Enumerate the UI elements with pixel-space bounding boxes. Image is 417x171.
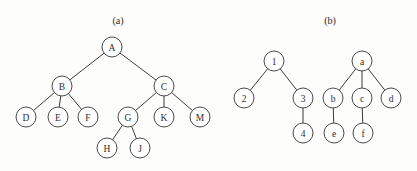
node-circle [154, 107, 174, 127]
node-circle [293, 123, 313, 143]
tree-node[interactable]: b [323, 88, 343, 108]
tree-node[interactable]: J [130, 138, 150, 158]
tree-node[interactable]: c [352, 88, 372, 108]
tree-node[interactable]: 3 [293, 88, 313, 108]
node-circle [118, 107, 138, 127]
tree-node[interactable]: B [52, 76, 72, 96]
node-circle [264, 51, 284, 71]
node-circle [154, 76, 174, 96]
tree-node[interactable]: D [16, 107, 36, 127]
captions-layer: (a)(b) [112, 15, 335, 27]
figure-canvas: ABCDEFGKMHJ1234abcdef (a)(b) [0, 0, 417, 171]
node-circle [130, 138, 150, 158]
tree-node[interactable]: e [324, 123, 344, 143]
node-circle [102, 37, 122, 57]
tree-node[interactable]: 1 [264, 51, 284, 71]
node-circle [324, 123, 344, 143]
node-circle [381, 88, 401, 108]
tree-node[interactable]: G [118, 107, 138, 127]
tree-node[interactable]: 4 [293, 123, 313, 143]
tree-edge [120, 53, 156, 80]
node-circle [97, 138, 117, 158]
tree-edge [136, 93, 157, 111]
tree-node[interactable]: M [190, 107, 210, 127]
tree-node[interactable]: E [48, 107, 68, 127]
tree-edge [250, 69, 267, 90]
tree-node[interactable]: K [154, 107, 174, 127]
tree-edge [132, 126, 137, 138]
node-circle [352, 88, 372, 108]
tree-node[interactable]: C [154, 76, 174, 96]
tree-edge [68, 94, 81, 110]
nodes-layer: ABCDEFGKMHJ1234abcdef [16, 37, 401, 158]
node-circle [323, 88, 343, 108]
node-circle [16, 107, 36, 127]
tree-edge [280, 69, 297, 90]
tree-node[interactable]: a [352, 51, 372, 71]
node-circle [190, 107, 210, 127]
tree-node[interactable]: d [381, 88, 401, 108]
node-circle [352, 51, 372, 71]
tree-node[interactable]: H [97, 138, 117, 158]
tree-edge [172, 93, 193, 111]
node-circle [78, 107, 98, 127]
panel-caption: (a) [112, 15, 123, 27]
tree-edge [368, 69, 385, 90]
tree-node[interactable]: 2 [234, 88, 254, 108]
tree-edge [34, 93, 55, 111]
node-circle [293, 88, 313, 108]
node-circle [353, 123, 373, 143]
tree-figure: ABCDEFGKMHJ1234abcdef (a)(b) [0, 0, 417, 171]
tree-node[interactable]: A [102, 37, 122, 57]
tree-edge [70, 53, 104, 80]
panel-caption: (b) [324, 15, 336, 27]
tree-edge [59, 96, 60, 107]
tree-edge [339, 69, 356, 90]
tree-node[interactable]: f [353, 123, 373, 143]
tree-node[interactable]: F [78, 107, 98, 127]
node-circle [234, 88, 254, 108]
tree-edge [113, 125, 123, 139]
node-circle [52, 76, 72, 96]
node-circle [48, 107, 68, 127]
